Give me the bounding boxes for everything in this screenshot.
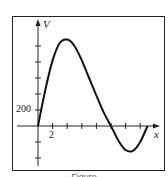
y-tick-label-200: 200 bbox=[16, 103, 31, 114]
data-curve bbox=[38, 39, 148, 151]
y-axis-label: V bbox=[43, 18, 51, 30]
plot-area: V x 200 2 bbox=[0, 0, 168, 177]
x-axis-label: x bbox=[153, 128, 159, 140]
chart: V x 200 2 Figure bbox=[0, 0, 168, 177]
figure-caption: Figure bbox=[0, 171, 168, 177]
x-tick-label-2: 2 bbox=[49, 129, 54, 140]
y-axis-arrow-icon bbox=[36, 19, 41, 26]
ticks bbox=[35, 46, 140, 158]
